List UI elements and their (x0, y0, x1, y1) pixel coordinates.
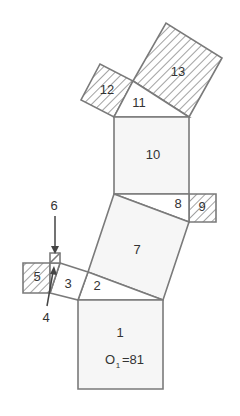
label-9: 9 (198, 199, 205, 214)
label-10: 10 (146, 147, 160, 162)
label-3: 3 (64, 276, 71, 291)
area-label-subscript: 1 (116, 361, 121, 370)
label-7: 7 (133, 242, 140, 257)
label-13: 13 (171, 64, 185, 79)
area-label-value: =81 (122, 352, 144, 367)
label-5: 5 (33, 269, 40, 284)
label-2: 2 (93, 278, 100, 293)
label-8: 8 (174, 196, 181, 211)
label-4: 4 (42, 310, 49, 325)
label-12: 12 (100, 82, 114, 97)
label-6: 6 (50, 198, 57, 213)
label-1: 1 (116, 325, 123, 340)
label-11: 11 (132, 95, 146, 110)
area-label-prefix: O (105, 352, 115, 367)
square-1 (78, 300, 163, 389)
pythagoras-diagram: 13 12 11 10 8 9 7 2 3 5 6 4 1 O 1 =81 (0, 0, 240, 416)
